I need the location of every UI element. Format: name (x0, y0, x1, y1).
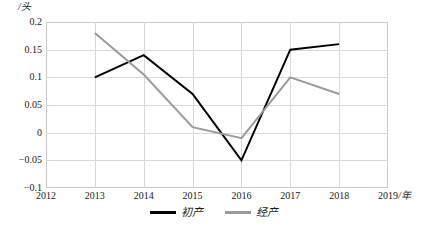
y-tick-label: 0.1 (0, 72, 42, 82)
y-tick-label: 0.15 (0, 45, 42, 55)
x-tick-label: 2018 (319, 190, 359, 201)
y-axis-unit-label: /头 (18, 1, 31, 13)
y-tick-label: −0.05 (0, 155, 42, 165)
legend-item[interactable]: 经产 (225, 206, 278, 218)
legend-label: 经产 (256, 206, 278, 218)
y-tick-label: 0.05 (0, 100, 42, 110)
x-tick-label: 2014 (124, 190, 164, 201)
legend-label: 初产 (181, 206, 203, 218)
x-tick-label: 2013 (75, 190, 115, 201)
legend-swatch-icon (225, 211, 251, 214)
legend-item[interactable]: 初产 (150, 206, 203, 218)
chart-legend: 初产经产 (0, 206, 427, 218)
series-lines (46, 22, 388, 188)
line-chart: /头 0.20.150.10.050−0.05−0.1 201220132014… (0, 0, 427, 227)
plot-area (46, 22, 388, 188)
x-axis-unit-label: /年 (398, 190, 411, 202)
x-tick-label: 2017 (270, 190, 310, 201)
x-tick-label: 2012 (26, 190, 66, 201)
series-line (95, 44, 339, 160)
y-tick-label: 0.2 (0, 17, 42, 27)
legend-swatch-icon (150, 211, 176, 214)
y-tick-label: 0 (0, 128, 42, 138)
x-tick-label: 2016 (221, 190, 261, 201)
x-tick-label: 2015 (173, 190, 213, 201)
